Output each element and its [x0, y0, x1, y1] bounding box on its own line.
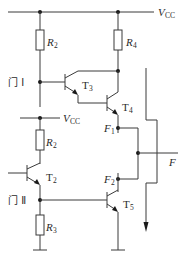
r3-label: R: [45, 221, 53, 233]
t2-label-sub: 2: [53, 176, 57, 185]
current-path-arrow: [144, 68, 158, 232]
resistor-r3: R 3: [33, 215, 57, 250]
vcc-top-label-sub: CC: [165, 11, 175, 20]
r3-label-sub: 3: [53, 226, 57, 235]
transistor-t5: T 5: [107, 190, 134, 250]
r2-bottom-label-sub: 2: [53, 141, 57, 150]
circuit-diagram: V CC R 2 门 Ⅰ T 3 R 4: [0, 0, 187, 265]
t5-label: T: [123, 198, 130, 210]
t2-label: T: [46, 171, 53, 183]
resistor-r2-top: R 2: [36, 12, 58, 107]
r2-top-label-sub: 2: [54, 41, 58, 50]
transistor-t3: T 3: [40, 71, 118, 103]
f2-label: F: [103, 173, 111, 185]
t4-label-sub: 4: [129, 106, 133, 115]
resistor-r4: R 4: [114, 12, 137, 73]
t3-label: T: [82, 79, 89, 91]
vcc-rail-mid: V CC: [20, 112, 80, 126]
arrow-down-icon: [144, 222, 149, 232]
gate-2-label: 门 Ⅱ: [8, 194, 26, 206]
r2-top-label: R: [46, 36, 54, 48]
r4-label: R: [125, 36, 133, 48]
r4-label-sub: 4: [133, 41, 137, 50]
t3-label-sub: 3: [89, 84, 93, 93]
f1-label: F: [103, 122, 111, 134]
resistor-r2-bottom: R 2: [36, 118, 57, 164]
output-wiring: F 1 F F 2: [103, 122, 178, 192]
t5-label-sub: 5: [130, 203, 134, 212]
gate-2-input: 门 Ⅱ: [8, 194, 107, 206]
transistor-t2: T 2: [8, 163, 57, 215]
transistor-t4: T 4: [107, 71, 133, 133]
f-output-label: F: [168, 156, 176, 168]
f1-label-sub: 1: [111, 127, 115, 136]
f2-label-sub: 2: [111, 178, 115, 187]
vcc-rail-top: V CC: [8, 6, 175, 20]
t4-label: T: [122, 101, 129, 113]
r2-bottom-label: R: [45, 136, 53, 148]
gate-1-label: 门 Ⅰ: [8, 76, 24, 88]
vcc-mid-label-sub: CC: [70, 117, 80, 126]
gate-1-input: 门 Ⅰ: [8, 76, 42, 88]
